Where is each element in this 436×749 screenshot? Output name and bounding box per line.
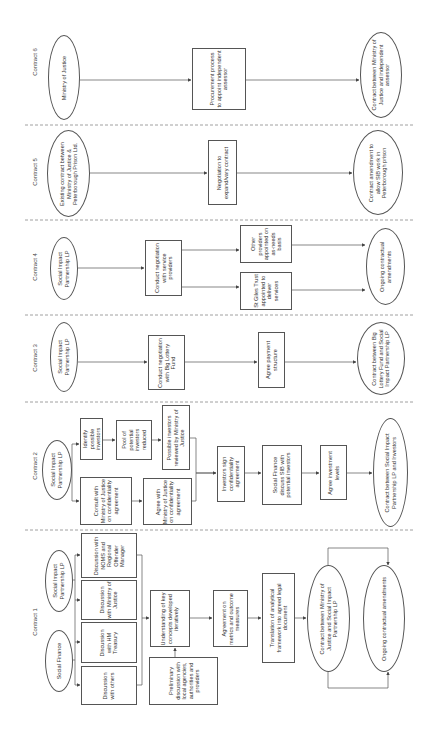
node-discussion-moj: Discussion with Ministry of Justice (81, 580, 137, 620)
lane-label-contract-5: Contract 5 (32, 158, 38, 186)
node-sf-discuss-sib: Social Finance discuss SIB with potentia… (262, 445, 302, 505)
node-agree-investment-levels: Agree investment levels (320, 445, 347, 500)
node-ongoing-amendments-c1: Ongoing contractual amendments (363, 565, 405, 672)
node-ministry-of-justice: Ministry of Justice (48, 35, 80, 120)
node-sip-lp-c4: Social Impact Partnership LP (50, 237, 78, 300)
node-agree-payment-structure: Agree payment structure (258, 332, 285, 388)
node-procurement-process: Procurement process to appoint independe… (192, 48, 246, 110)
node-contract-amendment: Contract amendment to allow SIB work in … (353, 130, 403, 215)
lane-label-contract-4: Contract 4 (32, 253, 38, 281)
node-understanding-key-concepts: Understanding of key concepts developed … (150, 590, 190, 647)
node-discussion-others: Discussion with others (81, 666, 137, 705)
node-social-finance: Social Finance (45, 630, 73, 692)
node-consult-moj: Consult with Ministry of Justice on conf… (80, 477, 132, 525)
node-translation-framework: Translation of analytical framework into… (262, 573, 295, 663)
node-ongoing-amendments-c4: Ongoing contractual amendments (366, 228, 405, 305)
lane-label-contract-3: Contract 3 (32, 344, 38, 372)
node-negotiation-service-providers: Conduct negotiation with service provide… (145, 240, 182, 296)
node-st-giles-trust: St Giles Trust appointed to deliver serv… (240, 272, 292, 310)
node-contract-big-lottery: Contract between Big Lottery Fund and So… (357, 322, 405, 395)
node-contract-sip-investors: Contract between Social Impact Partnersh… (373, 418, 408, 527)
node-negotiation-big-lottery: Conduct negotiation with Big Lottery Fun… (148, 335, 185, 390)
node-existing-contract: Existing contract between Ministry of Ju… (47, 130, 90, 217)
node-other-providers: Other providers appointed on as-needs ba… (240, 225, 292, 263)
node-sip-lp-c3: Social Impact Partnership LP (50, 322, 78, 392)
node-investors-reviewed: Possible investors reviewed by Ministry … (162, 405, 190, 470)
node-preliminary-discussion: Preliminary discussion with local agenci… (149, 657, 218, 705)
lane-label-contract-1: Contract 1 (32, 608, 38, 636)
contract-flow-diagram: Contract 6 Contract 5 Contract 4 Contrac… (0, 0, 436, 749)
lane-label-contract-2: Contract 2 (32, 452, 38, 480)
node-negotiation-expand-contract: Negotiation to expand/vary contract (208, 140, 237, 205)
node-discussion-noms: Discussion with NOMS and Regional Offend… (81, 533, 137, 578)
node-contract-moj-sip: Contract between Ministry of Justice and… (307, 565, 350, 672)
node-contract-moj-assessor: Contract between Ministry of Justice and… (360, 32, 402, 118)
lane-label-contract-6: Contract 6 (32, 48, 38, 76)
node-discussion-hmt: Discussion with HM Treasury (81, 622, 137, 663)
node-identify-investors: Identify possible investors (80, 418, 103, 460)
node-agree-moj: Agree with Ministry of Justice on confid… (143, 478, 192, 525)
node-investors-sign: Investors sign confidentiality agreement (217, 446, 245, 502)
node-pool-reduced: Pool of potential investors reduced (116, 420, 152, 460)
node-sip-lp-c1: Social Impact Partnership LP (45, 550, 73, 612)
node-sip-lp-c2: Social Impact Partnership LP (42, 440, 72, 500)
node-agreement-metrics: Agreement on metrics and outcome measure… (213, 590, 248, 647)
